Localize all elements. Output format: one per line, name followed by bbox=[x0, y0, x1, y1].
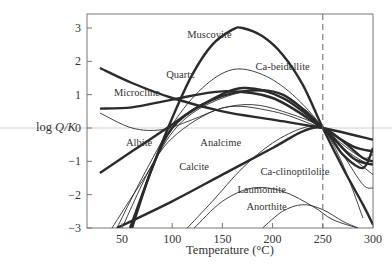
label-ca-clinoptilolite: Ca-clinoptilolite bbox=[261, 166, 330, 177]
y-axis-title-italic: Q/K bbox=[55, 120, 77, 134]
x-axis-title: Temperature (°C) bbox=[186, 243, 274, 257]
series-unlabeled-light-2 bbox=[112, 106, 373, 228]
y-tick-label: −1 bbox=[68, 154, 81, 168]
y-axis-title: log Q/K bbox=[36, 120, 77, 134]
y-axis-title-prefix: log bbox=[36, 120, 55, 134]
label-quartz: Quartz bbox=[166, 69, 195, 80]
y-tick-label: 2 bbox=[75, 54, 81, 68]
y-tick-label: −3 bbox=[68, 221, 81, 235]
label-muscovite: Muscovite bbox=[187, 29, 232, 40]
y-tick-label: 1 bbox=[75, 88, 81, 102]
x-tick-label: 50 bbox=[116, 232, 128, 246]
x-tick-label: 250 bbox=[314, 232, 332, 246]
x-tick-label: 100 bbox=[163, 232, 181, 246]
label-calcite: Calcite bbox=[179, 161, 209, 172]
label-anorthite: Anorthite bbox=[246, 201, 287, 212]
x-tick-label: 300 bbox=[364, 232, 382, 246]
y-tick-label: −2 bbox=[68, 188, 81, 202]
plot-frame bbox=[87, 14, 373, 228]
chart: 50100150200250300 3210−1−2−3 MuscoviteCa… bbox=[0, 0, 392, 277]
label-microcline: Microcline bbox=[114, 87, 160, 98]
label-analcime: Analcime bbox=[200, 137, 241, 148]
y-tick-label: 3 bbox=[75, 21, 81, 35]
label-ca-beidellite: Ca-beidellite bbox=[256, 61, 311, 72]
label-laumontite: Laumontite bbox=[237, 184, 286, 195]
label-albite: Albite bbox=[126, 137, 153, 148]
